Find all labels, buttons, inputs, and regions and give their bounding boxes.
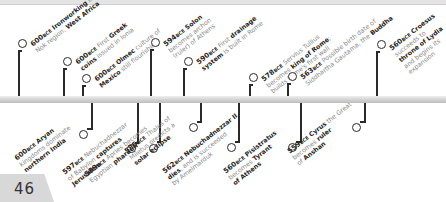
event-marker-icon [82,74,91,83]
event-connector-elbow [18,50,22,52]
event-connector-elbow [249,84,253,86]
timeline-event-top: 560BCE Croesussucceeds tothrone of Lydia… [388,12,446,75]
event-connector-elbow [287,83,291,85]
event-connector-elbow [376,51,380,53]
event-connector-elbow [235,141,240,143]
event-connector-elbow [82,85,86,87]
event-marker-icon [288,72,297,81]
event-connector-elbow [183,68,187,70]
event-connector-elbow [150,49,154,51]
event-connector [300,100,302,141]
event-connector-elbow [87,128,93,130]
event-marker-icon [249,73,258,82]
event-connector [63,69,65,98]
event-text: the Great [323,100,352,125]
event-connector [200,100,202,121]
event-connector-elbow [63,68,67,70]
page-top-rule [0,0,446,5]
event-connector [91,100,93,128]
event-marker-icon [189,123,198,132]
page-number: 46 [14,180,35,198]
event-marker-icon [63,57,72,66]
event-connector [376,52,378,98]
event-connector [364,100,366,121]
event-connector [183,69,185,98]
event-marker-icon [377,40,386,49]
timeline-bar [0,96,446,103]
event-marker-icon [184,57,193,66]
event-connector-elbow [360,121,366,123]
event-marker-icon [79,130,88,139]
event-marker-icon [151,38,160,47]
event-connector-elbow [197,121,202,123]
event-marker-icon [18,39,27,48]
event-connector [150,50,152,98]
timeline-event-bottom: 559BCE Cyrus the Greatbecomes rulerof An… [286,100,362,166]
event-connector [18,51,20,98]
